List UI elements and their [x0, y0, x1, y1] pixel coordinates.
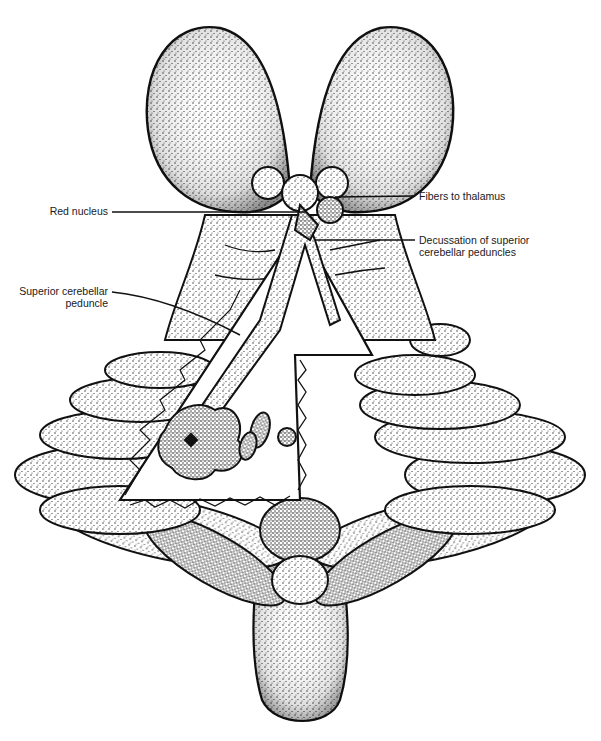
label-decussation-line1: Decussation of superior [419, 234, 529, 246]
label-decussation-line2: cerebellar peduncles [419, 246, 516, 258]
label-superior-cerebellar-line2: peduncle [10, 297, 108, 309]
leader-fibers-thalamus [335, 196, 415, 197]
label-red-nucleus: Red nucleus [20, 205, 108, 217]
right-cerebellar-folia [355, 324, 585, 534]
label-fibers-to-thalamus: Fibers to thalamus [419, 190, 505, 202]
diagram-canvas [0, 0, 601, 741]
anatomy-diagram: Red nucleus Fibers to thalamus Decussati… [0, 0, 601, 741]
label-superior-cerebellar-line1: Superior cerebellar [10, 285, 108, 297]
